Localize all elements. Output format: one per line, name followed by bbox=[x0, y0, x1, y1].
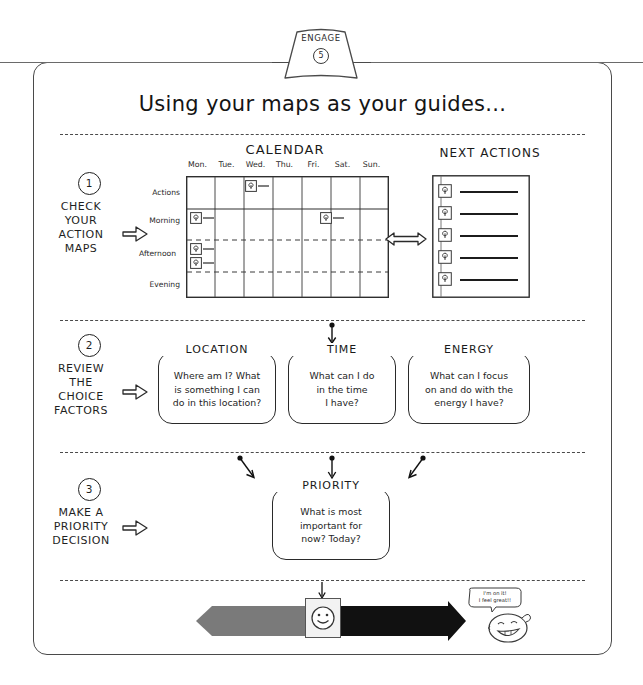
banner-step-number-value: 5 bbox=[313, 48, 329, 64]
banner-label: ENGAGE bbox=[271, 33, 371, 43]
sync-double-arrow-icon bbox=[384, 228, 428, 250]
arrow-location-to-priority-icon bbox=[237, 455, 259, 481]
location-pin-icon bbox=[438, 250, 452, 264]
separator-1 bbox=[60, 134, 585, 135]
list-item[interactable] bbox=[438, 228, 530, 244]
list-item[interactable] bbox=[438, 250, 530, 266]
calendar-day-fri: Fri. bbox=[299, 160, 328, 169]
calendar-day-headers: Mon. Tue. Wed. Thu. Fri. Sat. Sun. bbox=[183, 160, 389, 173]
priority-body: What is most important for now? Today? bbox=[272, 505, 390, 546]
step-3-number: 3 bbox=[78, 478, 101, 501]
pin-icon bbox=[245, 180, 271, 192]
smiley-card bbox=[305, 598, 341, 638]
banner-rule-right bbox=[371, 62, 643, 63]
calendar-entry bbox=[190, 257, 216, 269]
calendar-row-label-morning: Morning bbox=[128, 216, 180, 225]
calendar-day-mon: Mon. bbox=[183, 160, 212, 169]
separator-3 bbox=[60, 452, 585, 453]
calendar-title: CALENDAR bbox=[190, 142, 380, 157]
choice-factor-time-body: What can I do in the time I have? bbox=[288, 369, 396, 410]
choice-factor-location-body: Where am I? What is something I can do i… bbox=[158, 369, 276, 410]
calendar-row-label-actions: Actions bbox=[128, 188, 180, 197]
pin-icon bbox=[320, 212, 346, 224]
step-3-arrow-icon bbox=[122, 518, 148, 538]
list-item-line bbox=[460, 279, 518, 281]
choice-factor-time-title: TIME bbox=[288, 343, 396, 356]
step-1-arrow-icon bbox=[122, 224, 148, 244]
step-2-number: 2 bbox=[78, 334, 101, 357]
calendar-entry bbox=[190, 212, 216, 224]
list-item-line bbox=[460, 191, 518, 193]
calendar-day-thu: Thu. bbox=[270, 160, 299, 169]
location-pin-icon bbox=[438, 206, 452, 220]
diagram-canvas: ENGAGE 5 Using your maps as your guides.… bbox=[0, 0, 643, 685]
calendar-row-label-evening: Evening bbox=[128, 280, 180, 289]
arrow-time-to-priority-icon bbox=[325, 455, 339, 481]
list-item[interactable] bbox=[438, 272, 530, 288]
momentum-label: MOMENTUM bbox=[150, 13, 282, 27]
smiley-face-icon bbox=[306, 599, 340, 637]
list-item[interactable] bbox=[438, 206, 530, 222]
location-pin-icon bbox=[438, 184, 452, 198]
calendar-grid bbox=[186, 176, 389, 298]
location-pin-icon bbox=[438, 272, 452, 286]
location-pin-icon bbox=[438, 228, 452, 242]
separator-2 bbox=[60, 320, 585, 321]
banner-step-number: 5 bbox=[271, 48, 371, 64]
calendar-entry bbox=[190, 243, 216, 255]
pin-icon bbox=[190, 212, 216, 224]
next-actions-list bbox=[438, 184, 530, 294]
next-actions-title: NEXT ACTIONS bbox=[415, 146, 565, 160]
step-2-arrow-icon bbox=[122, 382, 148, 402]
separator-4 bbox=[60, 580, 585, 581]
engage-banner: ENGAGE 5 bbox=[271, 28, 371, 80]
pin-icon bbox=[190, 243, 216, 255]
list-item-line bbox=[460, 235, 518, 237]
list-item[interactable] bbox=[438, 184, 530, 200]
calendar-entry bbox=[320, 212, 346, 224]
list-item-line bbox=[460, 257, 518, 259]
calendar-day-sat: Sat. bbox=[328, 160, 357, 169]
page-title: Using your maps as your guides... bbox=[33, 92, 612, 116]
pin-icon bbox=[190, 257, 216, 269]
choice-factor-energy-body: What can I focus on and do with the ener… bbox=[408, 369, 530, 410]
step-2: 2 REVIEW THE CHOICE FACTORS bbox=[30, 334, 148, 418]
step-1-number: 1 bbox=[78, 172, 101, 195]
priority-title: PRIORITY bbox=[272, 479, 390, 492]
list-item-line bbox=[460, 213, 518, 215]
choice-factor-energy-title: ENERGY bbox=[408, 343, 530, 356]
calendar-day-sun: Sun. bbox=[357, 160, 386, 169]
calendar-row-label-afternoon: Afternoon bbox=[124, 249, 176, 258]
calendar-day-tue: Tue. bbox=[212, 160, 241, 169]
smiling-face-icon bbox=[478, 600, 538, 648]
banner-rule-left bbox=[0, 62, 272, 63]
action-label: ACTION bbox=[20, 13, 150, 27]
arrow-energy-to-priority-icon bbox=[404, 455, 426, 481]
calendar-entry bbox=[245, 180, 271, 192]
calendar-day-wed: Wed. bbox=[241, 160, 270, 169]
choice-factor-location-title: LOCATION bbox=[158, 343, 276, 356]
